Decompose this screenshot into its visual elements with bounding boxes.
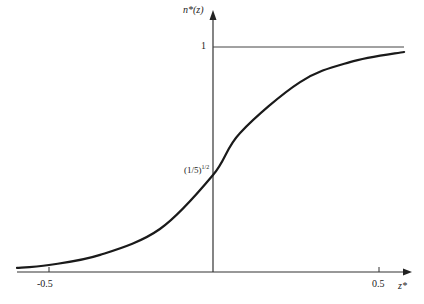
y-tick-label-one: 1 [201, 40, 206, 51]
x-axis-label: z* [398, 280, 407, 291]
data-curve [17, 52, 404, 268]
x-tick-label-pos: 0.5 [372, 278, 385, 289]
intercept-exponent: 1/2 [202, 164, 210, 170]
chart-canvas [0, 0, 424, 304]
x-tick-label-neg: -0.5 [37, 278, 53, 289]
intercept-label: (1/5)1/2 [184, 164, 209, 175]
y-axis-arrow-icon [210, 10, 217, 20]
x-axis-arrow-icon [403, 269, 412, 276]
y-axis-label: n*(z) [183, 4, 204, 15]
intercept-base: (1/5) [184, 165, 202, 175]
